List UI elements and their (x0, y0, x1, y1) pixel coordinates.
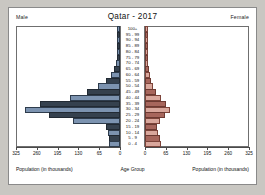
axis-tick-label: 195 (204, 151, 212, 156)
age-group-axis: 100+95 - 9990 - 9485 - 8980 - 8475 - 797… (120, 26, 145, 147)
axis-tick-label: 260 (33, 151, 41, 156)
axis-tick (145, 147, 146, 150)
axis-tick-label: 130 (75, 151, 83, 156)
female-legend-label: Female (231, 14, 250, 20)
axis-tick-label: 65 (97, 151, 102, 156)
axis-titles: Population (in thousands) Age Group Popu… (16, 166, 249, 178)
axis-tick (207, 147, 208, 150)
chart-frame: Qatar - 2017 Male Female 100+95 - 9990 -… (8, 7, 257, 185)
axis-tick-label: 0 (144, 151, 147, 156)
axis-tick (249, 147, 250, 150)
axis-tick (37, 147, 38, 150)
axis-tick (228, 147, 229, 150)
left-axis-title: Population (in thousands) (16, 166, 73, 172)
axis-tick-label: 0 (119, 151, 122, 156)
center-axis-title: Age Group (120, 166, 144, 172)
axis-tick (120, 147, 121, 150)
male-bars (16, 26, 120, 147)
axis-tick (166, 147, 167, 150)
axis-tick-label: 325 (245, 151, 253, 156)
axis-tick-label: 325 (12, 151, 20, 156)
value-axis: 325260195130650065130195260325 (16, 147, 249, 163)
axis-tick-label: 130 (183, 151, 191, 156)
axis-tick-label: 260 (224, 151, 232, 156)
male-legend-label: Male (16, 14, 28, 20)
page-title: Qatar - 2017 (9, 12, 256, 21)
male-axis-line (16, 147, 120, 148)
axis-tick (99, 147, 100, 150)
female-bars (145, 26, 249, 147)
right-axis-title: Population (in thousands) (192, 166, 249, 172)
axis-tick-label: 195 (54, 151, 62, 156)
pyramid-plot-area: 100+95 - 9990 - 9485 - 8980 - 8475 - 797… (16, 26, 249, 147)
female-axis-line (145, 147, 249, 148)
axis-tick (78, 147, 79, 150)
axis-tick (187, 147, 188, 150)
axis-tick (16, 147, 17, 150)
axis-tick-label: 65 (163, 151, 168, 156)
axis-tick (58, 147, 59, 150)
